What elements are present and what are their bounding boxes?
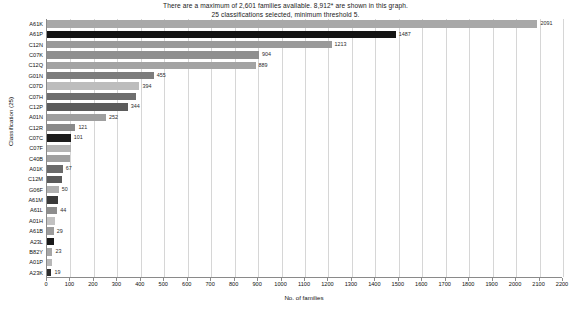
bar[interactable] [47,248,52,255]
bar-value-label: 2091 [540,20,552,26]
bar[interactable] [47,31,396,38]
bar-value-label: 904 [262,51,271,57]
x-axis-tick-label: 1100 [298,281,310,287]
bar-value-label: 889 [259,62,268,68]
bar-row[interactable] [47,216,562,226]
x-axis-tick-label: 1800 [462,281,474,287]
bar-value-label: 19 [54,269,60,275]
bar-value-label: 67 [66,165,72,171]
bar-row[interactable]: 19 [47,268,562,278]
y-axis-tick-label: C12N [29,42,43,48]
bar-row[interactable]: 101 [47,133,562,143]
y-axis-tick-label: A23K [29,270,43,276]
y-axis-tick-label: C07K [29,52,43,58]
bar[interactable] [47,217,55,224]
x-axis-tick-label: 2000 [509,281,521,287]
bar[interactable] [47,114,106,121]
bar-row[interactable]: 121 [47,123,562,133]
bar-value-label: 101 [74,134,83,140]
bar[interactable] [47,93,136,100]
bar-row[interactable] [47,257,562,267]
bar-row[interactable] [47,143,562,153]
chart-title-block: There are a maximum of 2,601 families av… [0,1,571,19]
bar[interactable] [47,155,70,162]
bar[interactable] [47,227,54,234]
bar-row[interactable] [47,195,562,205]
y-axis-tick-label: C07D [29,83,43,89]
bar[interactable] [47,186,59,193]
y-axis-tick-label: A01K [29,166,43,172]
bar-value-label: 394 [142,83,151,89]
x-axis-tick-label: 200 [88,281,97,287]
bar-row[interactable]: 344 [47,102,562,112]
x-axis-tick-label: 100 [65,281,74,287]
y-axis-tick-label: A01H [29,218,43,224]
x-axis-tick-label: 1900 [485,281,497,287]
y-axis-tick-label: A01P [29,259,43,265]
bar[interactable] [47,20,537,27]
bar-value-label: 1213 [335,41,347,47]
bar[interactable] [47,134,71,141]
y-axis-tick-label: A61K [29,21,43,27]
x-axis-tick-label: 1600 [415,281,427,287]
bar-row[interactable]: 904 [47,50,562,60]
bar-value-label: 121 [78,124,87,130]
y-axis-tick-label: A61M [28,197,43,203]
x-axis-tick-label: 1500 [392,281,404,287]
plot-area: 2091148712139048894553943442521211016750… [46,19,562,278]
bar-row[interactable] [47,237,562,247]
bar[interactable] [47,145,71,152]
y-axis-tick-label: A23L [30,239,43,245]
x-axis-tick-label: 0 [44,281,47,287]
y-axis-tick-label: C07C [29,135,43,141]
bar-row[interactable]: 394 [47,81,562,91]
gridline [563,19,564,277]
bar-row[interactable]: 23 [47,247,562,257]
y-axis-tick-label: A61L [30,207,43,213]
chart-title-line-2: 25 classifications selected, minimum thr… [0,10,571,19]
bar-row[interactable] [47,154,562,164]
bar-row[interactable] [47,174,562,184]
bar[interactable] [47,176,62,183]
bar[interactable] [47,259,52,266]
y-axis-tick-label: C12P [29,104,43,110]
y-axis-tick-label: C07F [29,145,43,151]
y-axis-tick-label: G06F [29,187,43,193]
y-axis-tick-label: A61P [29,31,43,37]
bar[interactable] [47,165,63,172]
bar-row[interactable]: 1487 [47,29,562,39]
bar-row[interactable]: 44 [47,205,562,215]
bar[interactable] [47,82,139,89]
x-axis-tick-label: 400 [135,281,144,287]
x-axis-tick-label: 500 [159,281,168,287]
bar[interactable] [47,269,51,276]
bar-row[interactable]: 29 [47,226,562,236]
bar-row[interactable]: 252 [47,112,562,122]
x-axis-ticks: 0100200300400500600700800900100011001200… [46,278,562,292]
bar[interactable] [47,41,332,48]
bar-row[interactable]: 2091 [47,19,562,29]
bar[interactable] [47,238,54,245]
bar-value-label: 50 [62,186,68,192]
bar-value-label: 344 [131,103,140,109]
bar[interactable] [47,62,256,69]
bar-row[interactable] [47,92,562,102]
bar-row[interactable]: 1213 [47,40,562,50]
bar-row[interactable]: 67 [47,164,562,174]
bar[interactable] [47,72,154,79]
x-axis-tick-label: 1400 [368,281,380,287]
bar[interactable] [47,51,259,58]
bar-series: 2091148712139048894553943442521211016750… [47,19,562,277]
y-axis-tick-label: C12M [28,176,43,182]
bar[interactable] [47,207,57,214]
y-axis-tick-label: C12R [29,125,43,131]
bar[interactable] [47,124,75,131]
bar-row[interactable]: 50 [47,185,562,195]
bar-row[interactable]: 455 [47,71,562,81]
bar[interactable] [47,103,128,110]
bar[interactable] [47,196,58,203]
bar-value-label: 29 [57,228,63,234]
bar-value-label: 455 [157,72,166,78]
bar-row[interactable]: 889 [47,60,562,70]
bar-value-label: 252 [109,114,118,120]
